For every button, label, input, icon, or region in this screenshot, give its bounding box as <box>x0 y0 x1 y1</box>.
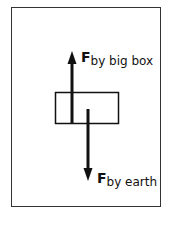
force-label-by-big-box: Fby big box <box>81 50 153 64</box>
force-symbol: F <box>97 170 107 186</box>
force-label-by-earth: Fby earth <box>97 171 157 185</box>
down-arrow-icon <box>84 109 93 181</box>
force-subscript: by big box <box>91 54 154 68</box>
force-symbol: F <box>81 49 91 65</box>
force-subscript: by earth <box>107 175 158 189</box>
up-arrow-icon <box>68 51 77 124</box>
